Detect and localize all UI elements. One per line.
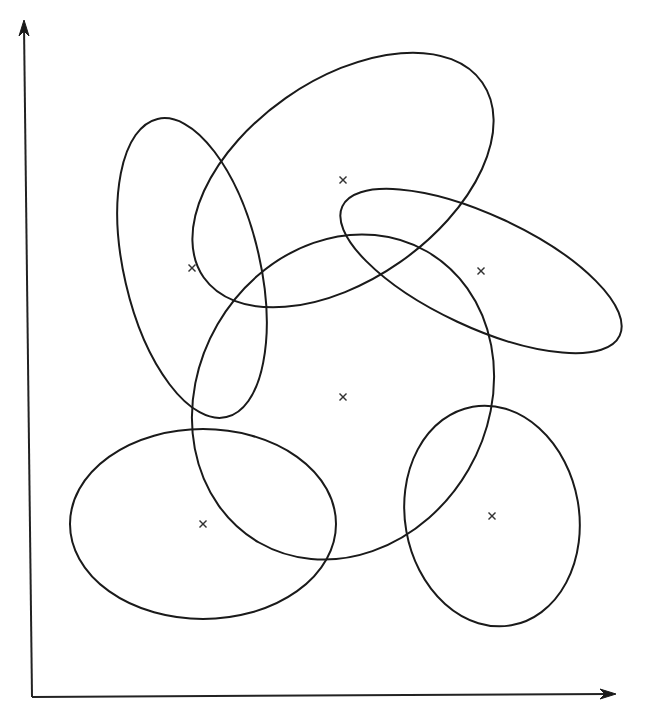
cluster-ellipses	[70, 1, 643, 641]
cross-x-icon	[478, 268, 485, 275]
cluster-diagram	[0, 0, 647, 721]
cross-x-icon	[189, 265, 196, 272]
x-axis	[32, 694, 610, 697]
center-markers	[189, 177, 496, 528]
axes	[19, 20, 616, 699]
cross-x-icon	[200, 521, 207, 528]
cross-x-icon	[340, 177, 347, 184]
cross-x-icon	[340, 394, 347, 401]
cross-x-icon	[489, 513, 496, 520]
y-axis	[24, 26, 32, 697]
